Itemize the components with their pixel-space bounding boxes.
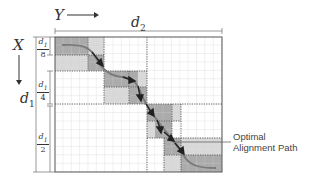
annotation-line-1: Optimal [233,131,297,142]
annotation-line-2: Alignment Path [233,142,297,153]
annotation-label: Optimal Alignment Path [233,131,297,153]
multiscale-dtw-diagram: Y X d2 d1 d18 d14 d12 [0,0,309,179]
